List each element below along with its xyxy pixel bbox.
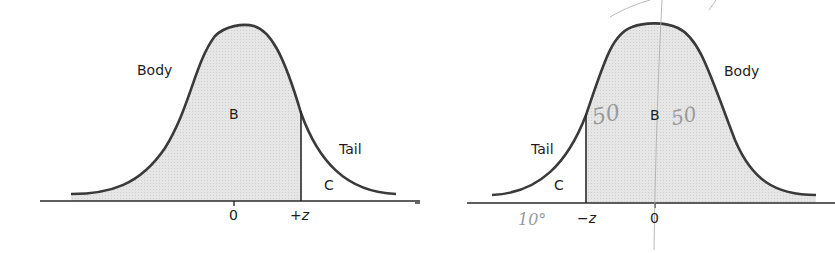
right-tail-label: Tail: [531, 142, 554, 156]
pencil-note-50-right: 50: [669, 104, 698, 129]
pencil-note-10: 10°: [518, 212, 546, 228]
left-tick-z-label: +z: [290, 208, 309, 222]
right-region-c-label: C: [554, 178, 564, 192]
pencil-note-50-left: 50: [590, 101, 622, 128]
pencil-stroke-mark: [709, 0, 716, 10]
left-region-b-label: B: [229, 107, 239, 121]
right-tick-zero-label: 0: [650, 211, 659, 225]
right-body-label: Body: [724, 64, 759, 78]
right-region-b-label: B: [650, 108, 660, 122]
right-figure: [415, 0, 835, 250]
left-tail-label: Tail: [339, 142, 362, 156]
right-tick-z-label: −z: [577, 211, 596, 225]
left-region-c-label: C: [324, 178, 334, 192]
left-body-label: Body: [137, 63, 172, 77]
normal-distribution-diagrams: [0, 0, 835, 253]
left-tick-zero-label: 0: [229, 208, 238, 222]
pencil-arc-mark: [610, 0, 650, 17]
